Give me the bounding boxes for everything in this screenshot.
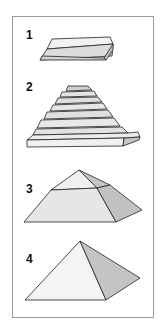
stage-4-pyramid <box>25 241 140 300</box>
pyramid-stages-illustration <box>0 0 164 329</box>
stage-2-stepped <box>27 86 140 147</box>
stage-1-slab <box>40 37 113 60</box>
stage-3-truncated <box>24 170 142 222</box>
